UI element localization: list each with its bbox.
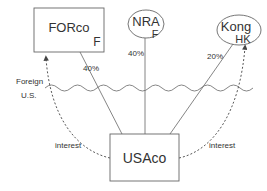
- us-label: U.S.: [21, 91, 37, 100]
- forco-name: FORco: [48, 20, 89, 35]
- forco-percent-label: 40%: [83, 64, 99, 73]
- nra-percent-label: 40%: [128, 49, 144, 58]
- kong-percent-label: 20%: [207, 52, 223, 61]
- usaco-entity: USAco: [110, 134, 179, 181]
- interest-label-left: interest: [55, 141, 82, 150]
- kong-jurisdiction: HK: [235, 33, 251, 45]
- foreign-label: Foreign: [16, 77, 43, 86]
- kong-entity: Kong HK: [217, 15, 261, 45]
- kong-name: Kong: [221, 19, 251, 34]
- nra-entity: NRA F: [128, 10, 164, 40]
- usaco-name: USAco: [123, 150, 167, 166]
- border-wave-line: [45, 85, 253, 91]
- forco-jurisdiction: F: [93, 35, 100, 49]
- ownership-diagram: FORco F NRA F Kong HK USAco 40% 40% 20% …: [0, 0, 267, 191]
- nra-name: NRA: [132, 14, 160, 29]
- forco-entity: FORco F: [34, 8, 104, 52]
- ownership-line-kong: [170, 44, 233, 134]
- interest-label-right: interest: [209, 141, 236, 150]
- nra-jurisdiction: F: [152, 28, 159, 40]
